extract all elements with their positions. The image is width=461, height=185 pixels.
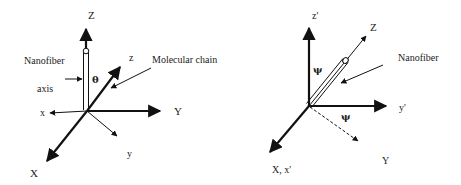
label-theta: θ [92,74,99,85]
label-Y: Y [382,155,389,166]
Y-axis-dashed [310,107,358,141]
label-x: x [40,107,45,118]
nanofiber-pointer [341,65,383,83]
label-Z: Z [370,21,377,33]
label-molecular-chain: Molecular chain [152,54,217,65]
right-diagram: z' Z Nanofiber ψ y' ψ X, x' Y [270,10,439,175]
left-diagram: Z z Molecular chain Nanofiber axis θ x Y… [24,9,217,179]
label-nanofiber: Nanofiber [398,52,439,63]
orientation-diagrams: Z z Molecular chain Nanofiber axis θ x Y… [0,0,461,185]
x-axis [50,111,87,113]
label-axis: axis [37,83,53,94]
X-x-prime-axis [270,106,309,152]
label-z: z [129,52,134,63]
X-axis [47,111,87,161]
label-Z: Z [88,9,95,21]
label-X-x-prime: X, x' [272,164,291,175]
label-psi-vertical: ψ [313,64,322,75]
label-y: y [127,148,132,159]
y-axis [87,111,117,136]
label-X: X [30,167,38,179]
label-nanofiber: Nanofiber [24,55,65,66]
label-Y: Y [174,105,182,117]
label-y-prime: y' [399,102,406,113]
nanofiber-tube [83,48,89,110]
label-z-prime: z' [312,10,318,21]
label-psi-horizontal: ψ [341,111,350,122]
